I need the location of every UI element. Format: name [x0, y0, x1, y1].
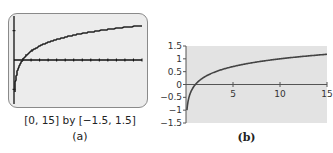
y-tick-label: 0.5	[168, 67, 182, 77]
y-tick-label: 1	[176, 54, 182, 64]
panel-label-a: (a)	[0, 130, 160, 143]
x-tick-label: 10	[274, 89, 286, 99]
x-tick-label: 15	[321, 89, 332, 99]
y-tick-label: −1	[169, 105, 182, 115]
y-tick-label: −1.5	[160, 118, 182, 128]
viewing-window-label: [0, 15] by [−1.5, 1.5]	[0, 114, 160, 126]
x-tick-label: 5	[230, 89, 236, 99]
y-tick-label: −0.5	[160, 92, 182, 102]
calculator-curve	[15, 26, 142, 92]
y-tick-label: 1.5	[168, 41, 182, 51]
panel-b-function-plot: 1.510.50−0.5−1−1.551015 (b)	[160, 0, 333, 153]
y-tick-label: 0	[176, 80, 182, 90]
panel-a-calculator-graph: [0, 15] by [−1.5, 1.5] (a)	[0, 0, 160, 153]
panel-label-b: (b)	[160, 131, 333, 144]
